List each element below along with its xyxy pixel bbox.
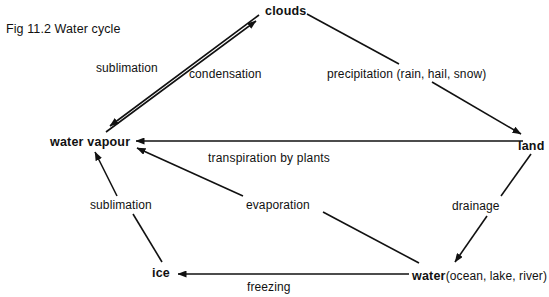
edge-label-sublimation-bottom: sublimation: [90, 199, 152, 211]
edge-label-drainage: drainage: [452, 200, 500, 212]
arrow-precipitation-upper: [307, 14, 399, 64]
node-water-body: water(ocean, lake, river): [412, 267, 547, 283]
arrow-sublimation-bottom-upper: [95, 152, 117, 196]
arrow-precipitation-lower: [432, 82, 521, 134]
edge-label-precipitation: precipitation (rain, hail, snow): [327, 68, 486, 80]
edge-label-transpiration: transpiration by plants: [208, 152, 330, 164]
node-water-vapour: water vapour: [50, 136, 130, 149]
edge-label-sublimation-top: sublimation: [96, 62, 158, 74]
arrow-sublimation-bottom-lower: [133, 214, 162, 262]
arrow-evaporation-lower: [323, 212, 419, 263]
arrow-drainage-upper: [501, 154, 531, 196]
figure-caption: Fig 11.2 Water cycle: [6, 23, 121, 36]
node-land: land: [518, 140, 545, 153]
water-cycle-figure: Fig 11.2 Water cycle water vapour clouds…: [0, 0, 549, 297]
edge-label-condensation: condensation: [189, 68, 262, 80]
node-clouds: clouds: [265, 5, 306, 18]
arrow-drainage-lower: [455, 216, 487, 262]
node-water-body-label: water: [412, 269, 446, 283]
edge-label-freezing: freezing: [247, 281, 291, 293]
node-water-body-detail: (ocean, lake, river): [446, 269, 547, 283]
edge-label-evaporation: evaporation: [246, 199, 310, 211]
node-ice: ice: [152, 267, 170, 280]
